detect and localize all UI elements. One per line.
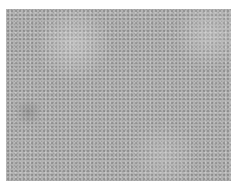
cell-micrograph: Phase-contrast micrograph of a confluent… <box>6 9 231 181</box>
